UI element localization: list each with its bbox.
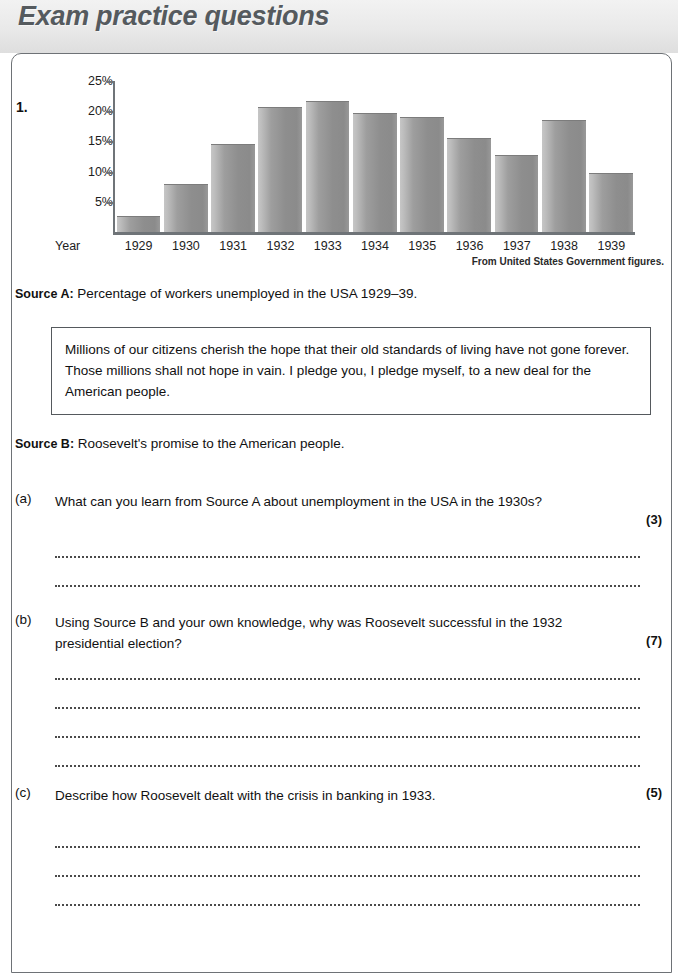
chart-x-tick-label: 1932 [257, 239, 304, 253]
answer-line[interactable] [55, 763, 640, 767]
content-frame: 1. 25%20%15%10%5% 1929193019311932193319… [11, 53, 672, 973]
chart-bar [447, 138, 491, 232]
chart-y-tick: 10% [62, 165, 113, 179]
chart-bar [117, 216, 161, 232]
page-title: Exam practice questions [18, 1, 329, 32]
chart-bar [164, 184, 208, 232]
question-text: What can you learn from Source A about u… [55, 491, 585, 512]
question-text: Using Source B and your own knowledge, w… [55, 612, 585, 654]
chart-x-tick-label: 1939 [588, 239, 635, 253]
chart-bar [495, 155, 539, 232]
chart-x-tick-label: 1934 [351, 239, 398, 253]
chart-y-tick-mark [107, 81, 114, 83]
chart-x-axis [113, 232, 635, 235]
chart-x-tick-label: 1937 [493, 239, 540, 253]
chart-bar [211, 144, 255, 232]
chart-bar [258, 107, 302, 232]
answer-line[interactable] [55, 705, 640, 709]
chart-x-tick-label: 1931 [210, 239, 257, 253]
chart-y-tick: 5% [62, 195, 113, 209]
answer-line[interactable] [55, 734, 640, 738]
source-b-quote-box: Millions of our citizens cherish the hop… [51, 327, 651, 415]
source-b-text: Roosevelt's promise to the American peop… [78, 436, 345, 451]
chart-bar [589, 173, 633, 232]
chart-y-tick: 25% [62, 74, 113, 88]
source-b-quote-text: Millions of our citizens cherish the hop… [65, 339, 637, 402]
chart-bar [542, 120, 586, 232]
question-letter: (a) [15, 491, 32, 506]
chart-y-tick: 20% [62, 104, 113, 118]
source-a-label: Source A: [15, 287, 74, 301]
chart-x-tick-label: 1936 [446, 239, 493, 253]
answer-line[interactable] [55, 583, 640, 587]
chart-x-tick-label: 1930 [162, 239, 209, 253]
answer-line[interactable] [55, 844, 640, 848]
source-a-text: Percentage of workers unemployed in the … [77, 286, 417, 301]
chart-y-tick-mark [107, 141, 114, 143]
chart-bar [353, 113, 397, 232]
question-marks: (5) [646, 785, 662, 800]
chart-x-axis-label: Year [55, 239, 80, 253]
chart-bar [306, 101, 350, 232]
chart-x-tick-label: 1933 [304, 239, 351, 253]
chart-x-tick-label: 1929 [115, 239, 162, 253]
question-letter: (c) [15, 785, 31, 800]
chart-y-tick: 15% [62, 134, 113, 148]
answer-line[interactable] [55, 676, 640, 680]
answer-line[interactable] [55, 902, 640, 906]
question-marks: (7) [646, 633, 662, 648]
chart-y-tick-mark [107, 111, 114, 113]
question-letter: (b) [15, 612, 32, 627]
source-a-bar-chart: 25%20%15%10%5% 1929193019311932193319341… [12, 54, 673, 269]
chart-y-tick-mark [107, 172, 114, 174]
source-b-caption: Source B: Roosevelt's promise to the Ame… [15, 436, 344, 451]
chart-credit: From United States Government figures. [472, 256, 664, 267]
question-text: Describe how Roosevelt dealt with the cr… [55, 785, 585, 806]
answer-line[interactable] [55, 554, 640, 558]
source-a-caption: Source A: Percentage of workers unemploy… [15, 286, 417, 301]
chart-bar [400, 117, 444, 232]
answer-line[interactable] [55, 873, 640, 877]
question-marks: (3) [646, 512, 662, 527]
chart-x-tick-label: 1935 [399, 239, 446, 253]
chart-bars-group [115, 81, 635, 232]
source-b-label: Source B: [15, 437, 74, 451]
chart-x-tick-label: 1938 [540, 239, 587, 253]
chart-y-tick-mark [107, 202, 114, 204]
